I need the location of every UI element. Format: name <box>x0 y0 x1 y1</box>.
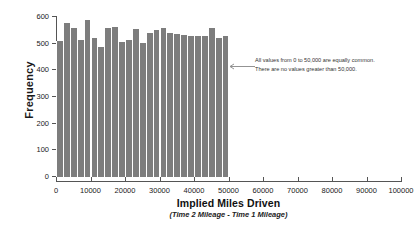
x-tick-label: 30000 <box>149 186 170 195</box>
y-tick-label: 300 <box>36 92 49 101</box>
x-axis-ticks: 0100002000030000400005000060000700008000… <box>56 181 401 182</box>
histogram-bar <box>111 27 118 177</box>
x-tick <box>367 177 368 182</box>
histogram-bar <box>215 38 222 177</box>
chart-annotation: All values from 0 to 50,000 are equally … <box>255 56 413 73</box>
histogram-bar <box>153 30 160 177</box>
x-tick <box>298 177 299 182</box>
y-tick-label: 200 <box>36 118 49 127</box>
x-tick-label: 80000 <box>322 186 343 195</box>
x-tick <box>91 177 92 182</box>
x-tick-label: 20000 <box>115 186 136 195</box>
x-tick-label: 60000 <box>253 186 274 195</box>
histogram-bar <box>201 36 208 177</box>
x-tick-label: 10000 <box>80 186 101 195</box>
x-tick <box>229 177 230 182</box>
annotation-arrow-icon <box>228 63 255 70</box>
histogram-bar <box>187 36 194 177</box>
x-tick-label: 70000 <box>287 186 308 195</box>
y-tick-label: 600 <box>36 12 49 21</box>
x-tick-label: 40000 <box>184 186 205 195</box>
x-axis-title-block: Implied Miles Driven (Time 2 Mileage - T… <box>56 197 401 219</box>
histogram-bar <box>125 40 132 177</box>
x-tick-label: 100000 <box>388 186 413 195</box>
histogram-bar <box>91 38 98 177</box>
histogram-bar <box>104 28 111 177</box>
x-tick <box>160 177 161 182</box>
histogram-bar <box>118 42 125 177</box>
histogram-bar <box>97 47 104 177</box>
histogram-bar <box>146 33 153 177</box>
x-axis-title: Implied Miles Driven <box>56 197 401 209</box>
x-tick <box>332 177 333 182</box>
histogram-bar <box>222 36 229 177</box>
histogram-bar <box>63 23 70 177</box>
y-tick-label: 400 <box>36 65 49 74</box>
annotation-line-1: All values from 0 to 50,000 are equally … <box>255 56 413 65</box>
histogram-bar <box>166 33 173 177</box>
histogram-bar <box>208 28 215 177</box>
histogram-bar <box>84 20 91 177</box>
annotation-line-2: There are no values greater than 50,000. <box>255 65 413 74</box>
x-tick <box>194 177 195 182</box>
y-tick-label: 0 <box>45 172 49 181</box>
histogram-bar <box>70 28 77 177</box>
histogram-bar <box>180 35 187 177</box>
histogram-bar <box>173 34 180 177</box>
histogram-bar <box>77 40 84 177</box>
x-tick <box>125 177 126 182</box>
y-tick-label: 100 <box>36 145 49 154</box>
y-tick-label: 500 <box>36 38 49 47</box>
x-tick <box>401 177 402 182</box>
y-axis-title: Frequency <box>23 15 35 165</box>
histogram-bars <box>56 16 401 181</box>
histogram-bar <box>194 36 201 177</box>
x-tick-label: 50000 <box>218 186 239 195</box>
x-axis-subtitle: (Time 2 Mileage - Time 1 Mileage) <box>56 210 401 219</box>
x-tick <box>56 177 57 182</box>
histogram-bar <box>139 43 146 177</box>
x-tick <box>263 177 264 182</box>
histogram-bar <box>56 41 63 177</box>
x-tick-label: 0 <box>54 186 58 195</box>
x-tick-label: 90000 <box>356 186 377 195</box>
histogram-bar <box>160 28 167 177</box>
histogram-bar <box>132 29 139 177</box>
